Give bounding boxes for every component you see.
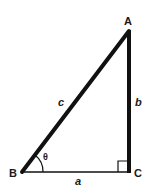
- angle-label-theta: θ: [43, 152, 48, 162]
- vertex-label-c: C: [134, 167, 142, 179]
- triangle-canvas: A B C c b a θ: [0, 0, 152, 195]
- side-label-a: a: [75, 175, 81, 187]
- angle-theta-arc: [35, 155, 43, 172]
- side-label-c: c: [58, 96, 64, 108]
- side-label-b: b: [135, 96, 142, 108]
- side-c: [22, 31, 129, 172]
- right-triangle-diagram: A B C c b a θ: [0, 0, 152, 195]
- vertex-label-a: A: [124, 15, 132, 27]
- vertex-label-b: B: [9, 167, 17, 179]
